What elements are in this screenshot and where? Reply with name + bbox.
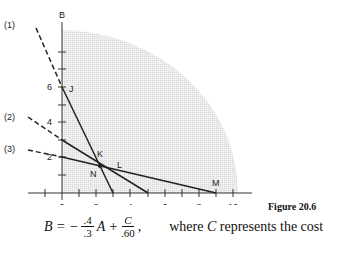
line-2-dashed	[28, 117, 62, 140]
line-1-dashed	[36, 28, 62, 87]
line-3-label: (3)	[4, 144, 15, 154]
equation-lhs: B = −	[44, 219, 78, 235]
x-tick-0: 0	[59, 202, 64, 205]
line-1-label: (1)	[4, 20, 15, 30]
y-tick-6: 6	[47, 82, 52, 92]
fraction-2: C .60	[121, 214, 135, 239]
equation: B = − .4 .3 A + C .60 , where C represen…	[44, 214, 323, 239]
point-k	[98, 164, 102, 168]
point-j-label: J	[69, 84, 74, 94]
x-tick-8: 8	[196, 202, 201, 205]
x-tick-10: 10	[228, 202, 238, 205]
fraction-1: .4 .3	[81, 214, 93, 239]
figure-caption: Figure 20.6	[268, 201, 316, 212]
point-m-label: M	[212, 178, 220, 188]
point-k-label: K	[97, 149, 103, 159]
fraction-1-numerator: .4	[81, 214, 93, 227]
fraction-1-denominator: .3	[83, 227, 91, 239]
y-axis-label: B	[59, 10, 65, 20]
feasible-region	[62, 30, 238, 193]
line-2-label: (2)	[4, 112, 15, 122]
point-n-label: N	[90, 169, 97, 179]
y-tick-4: 4	[47, 117, 52, 127]
line-3-dashed	[28, 150, 62, 157]
x-tick-4: 4	[127, 202, 132, 205]
where-prefix: where	[169, 219, 203, 235]
equation-comma: ,	[138, 219, 142, 235]
chart: 0 2 4 6 8 10 2 4 6 B (1) (2) (3) J K L N…	[0, 0, 339, 205]
fraction-2-numerator: C	[122, 214, 133, 227]
fraction-2-denominator: .60	[121, 227, 135, 239]
x-tick-2: 2	[93, 202, 98, 205]
where-suffix: represents the cost	[216, 219, 323, 235]
point-l-label: L	[117, 160, 122, 170]
where-var: C	[207, 219, 216, 235]
equation-mid: A +	[97, 219, 118, 235]
x-tick-6: 6	[162, 202, 167, 205]
